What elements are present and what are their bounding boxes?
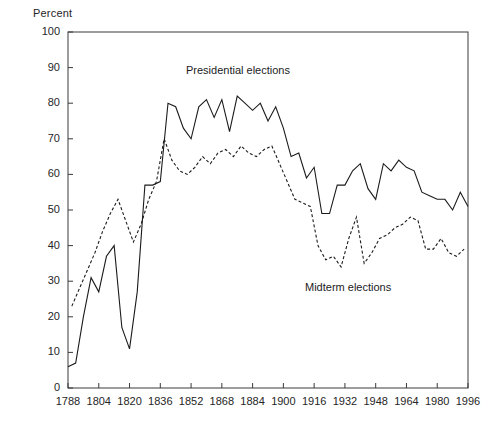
annotation-midterm-elections: Midterm elections — [305, 281, 391, 293]
y-tick-label-50: 50 — [32, 203, 60, 215]
voter-turnout-chart: Percent 0102030405060708090100 178818041… — [0, 0, 496, 428]
y-tick-label-0: 0 — [32, 381, 60, 393]
y-tick-label-10: 10 — [32, 345, 60, 357]
axis-lines — [68, 32, 468, 388]
y-tick-label-100: 100 — [32, 25, 60, 37]
series-line-midterm — [72, 139, 464, 306]
y-tick-label-20: 20 — [32, 310, 60, 322]
x-tick-label-1996: 1996 — [448, 395, 488, 407]
annotation-presidential-elections: Presidential elections — [186, 64, 290, 76]
y-tick-label-70: 70 — [32, 132, 60, 144]
data-series-lines — [68, 96, 468, 367]
axis-tick-marks — [68, 32, 468, 388]
y-tick-label-60: 60 — [32, 167, 60, 179]
y-tick-label-90: 90 — [32, 61, 60, 73]
y-tick-label-80: 80 — [32, 96, 60, 108]
series-line-presidential — [68, 96, 468, 367]
y-tick-label-30: 30 — [32, 274, 60, 286]
y-tick-label-40: 40 — [32, 239, 60, 251]
